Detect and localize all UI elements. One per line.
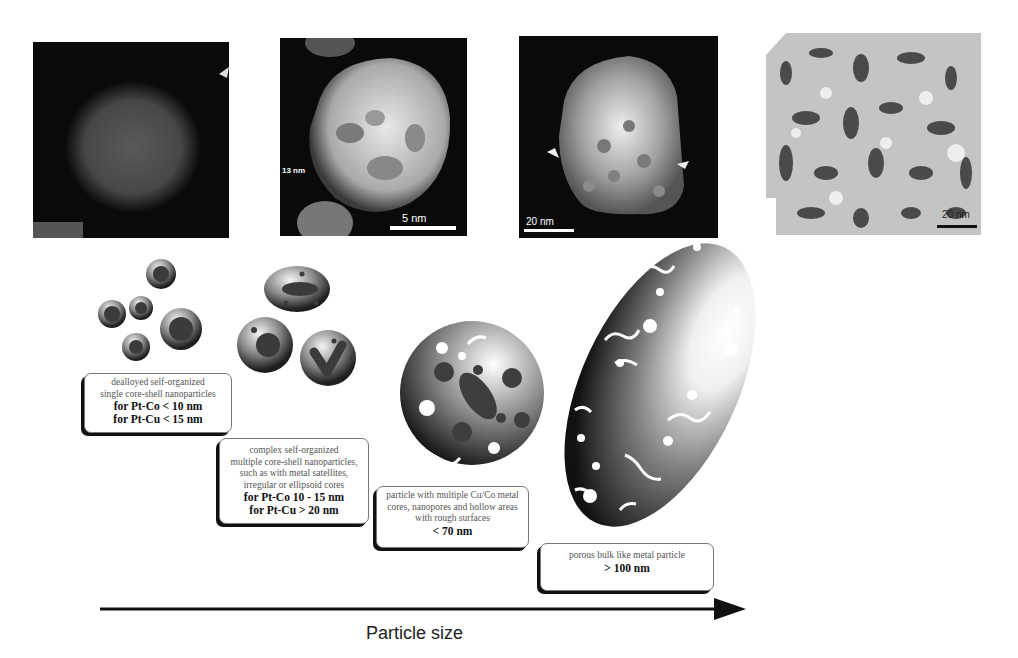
caption-line: single core-shell nanoparticles [89,389,227,401]
size-range: for Pt-Co 10 - 15 nm [224,491,364,504]
stage4-caption: porous bulk like metal particle > 100 nm [540,543,714,591]
caption-line: complex self-organized [224,445,364,457]
caption-line: with rough surfaces [381,513,524,525]
caption-line: multiple core-shell nanoparticles, [224,457,364,469]
particle-size-arrow [100,598,746,620]
caption-line: porous bulk like metal particle [545,550,709,562]
size-range: for Pt-Cu < 15 nm [89,413,227,426]
stage1-caption: dealloyed self-organized single core-she… [84,373,232,433]
stage2-multi-core-particles [237,266,356,386]
stage3-caption: particle with multiple Cu/Co metal cores… [376,486,529,548]
caption-line: particle with multiple Cu/Co metal [381,490,524,502]
caption-line: such as with metal satellites, [224,468,364,480]
stage2-caption: complex self-organized multiple core-she… [219,438,369,524]
caption-line: cores, nanopores and hollow areas [381,502,524,514]
caption-line: dealloyed self-organized [89,377,227,389]
caption-line: irregular or ellipsoid cores [224,480,364,492]
size-range: for Pt-Co < 10 nm [89,400,227,413]
arrow-head-icon [714,598,746,620]
schematic-particles [0,0,1018,658]
stage4-porous-bulk-particle [525,214,795,555]
size-range: for Pt-Cu > 20 nm [224,504,364,517]
stage3-nanoporous-particle [400,321,544,465]
size-range: < 70 nm [381,525,524,538]
size-range: > 100 nm [545,562,709,575]
stage1-core-shell-particles [98,259,202,361]
axis-label: Particle size [366,623,463,644]
